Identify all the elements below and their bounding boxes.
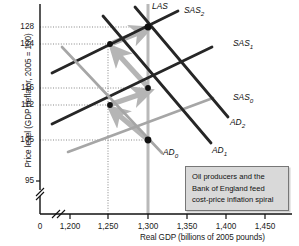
curve-label-sas1-sub: 1 <box>250 43 253 50</box>
curve-label-ad1-text: AD <box>212 145 224 155</box>
curve-label-sas2-text: SAS <box>184 5 201 15</box>
equilibrium-dot-116 <box>145 85 151 91</box>
y-tick-128: 128 <box>10 22 34 31</box>
y-tick-112: 112 <box>10 100 34 109</box>
equilibrium-dot-initial <box>145 137 152 144</box>
x-tick-marks <box>70 214 265 219</box>
curve-label-las: LAS <box>152 1 168 11</box>
equilibrium-dot-112 <box>107 102 113 108</box>
callout-line-1: Oil producers and the <box>192 171 283 183</box>
curve-label-ad0-text: AD <box>163 147 175 157</box>
x-axis-title: Real GDP (billions of 2005 pounds) <box>140 233 265 242</box>
curve-label-sas0: SAS0 <box>233 92 253 104</box>
callout-line-3: cost-price inflation spiral <box>192 194 283 206</box>
curve-label-sas2: SAS2 <box>184 5 204 17</box>
curve-label-sas0-sub: 0 <box>250 97 253 104</box>
x-tick-0: 0 <box>23 222 57 231</box>
curve-label-ad0: AD0 <box>163 147 178 159</box>
curve-label-sas0-text: SAS <box>233 92 250 102</box>
equilibrium-dot-top <box>145 24 152 31</box>
y-tick-105: 105 <box>10 135 34 144</box>
y-tick-116: 116 <box>10 83 34 92</box>
x-tick-1250: 1,250 <box>91 222 125 231</box>
arrow-2-up-right <box>112 93 144 104</box>
x-tick-1350: 1,350 <box>170 222 204 231</box>
curve-label-ad1-sub: 1 <box>224 150 227 157</box>
curve-label-sas1-text: SAS <box>233 38 250 48</box>
curve-label-ad2-sub: 2 <box>242 122 245 129</box>
y-tick-124: 124 <box>10 39 34 48</box>
curve-label-ad0-sub: 0 <box>175 152 178 159</box>
curve-label-ad2-text: AD <box>230 117 242 127</box>
curve-label-ad1: AD1 <box>212 145 227 157</box>
x-tick-1450: 1,450 <box>248 222 282 231</box>
curve-sas1 <box>52 47 212 124</box>
curve-label-sas2-sub: 2 <box>201 10 204 17</box>
x-tick-1400: 1,400 <box>209 222 243 231</box>
callout-line-2: Bank of England feed <box>192 183 283 195</box>
y-tick-95: 95 <box>10 176 34 185</box>
curve-sas2 <box>52 11 178 73</box>
annotation-callout: Oil producers and the Bank of England fe… <box>185 166 289 211</box>
ad-as-chart: Price level (GDP deflator, 2005 = 100) R… <box>0 0 299 246</box>
curve-label-ad2: AD2 <box>230 117 245 129</box>
x-tick-1200: 1,200 <box>53 222 87 231</box>
x-tick-1300: 1,300 <box>131 222 165 231</box>
curve-label-sas1: SAS1 <box>233 38 253 50</box>
equilibrium-dot-124 <box>107 41 113 47</box>
